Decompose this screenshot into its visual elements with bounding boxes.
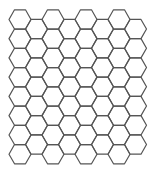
- hexagon-grid: [0, 0, 155, 171]
- background: [0, 0, 155, 171]
